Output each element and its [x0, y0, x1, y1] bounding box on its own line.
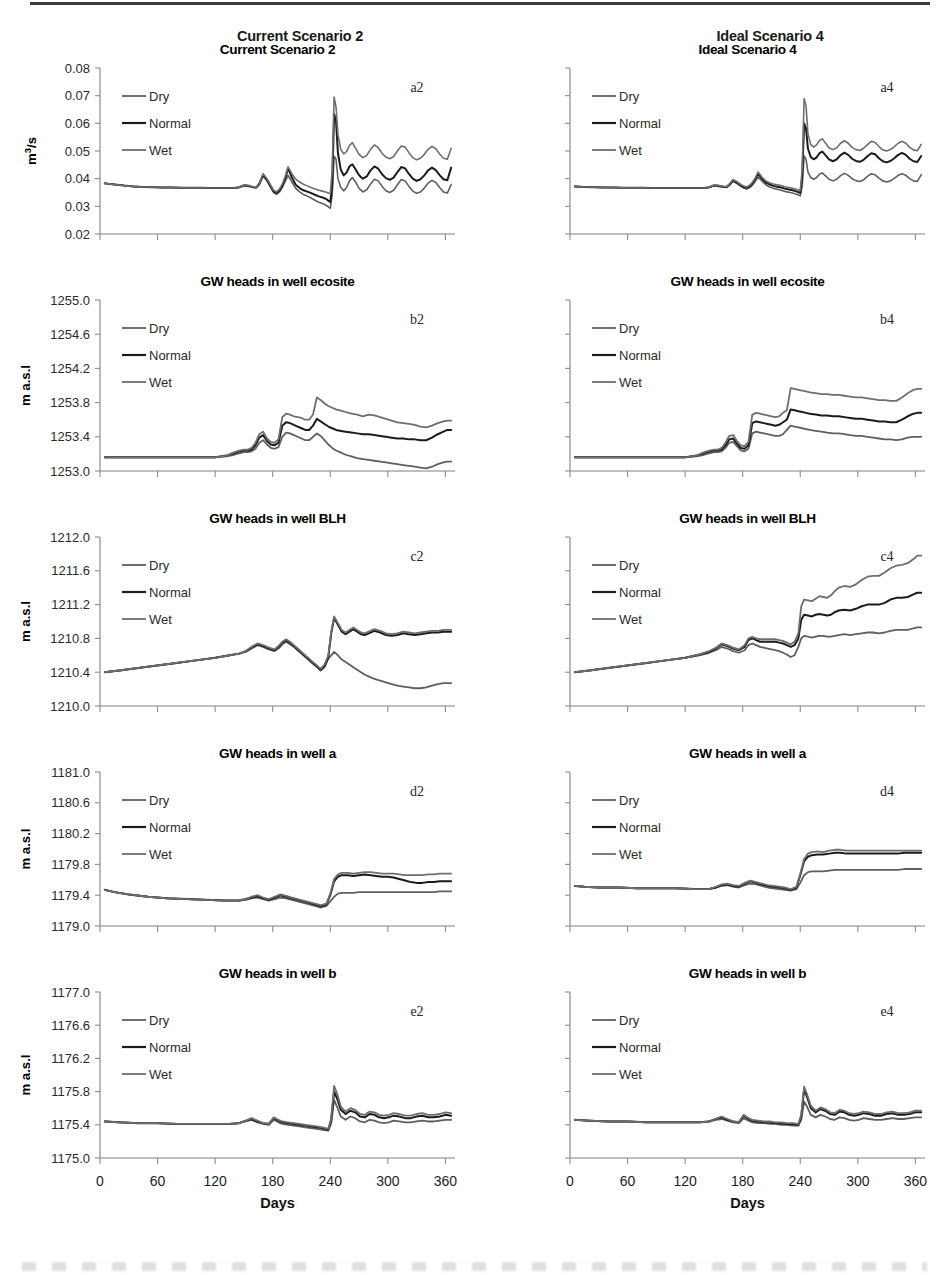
- series-line-dry: [105, 1100, 451, 1131]
- panel-title: GW heads in well BLH: [209, 511, 346, 526]
- panel-grid: Current Scenario 20.020.030.040.050.060.…: [0, 0, 946, 1275]
- legend-label-wet: Wet: [619, 1067, 642, 1082]
- y-tick-label: 1179.8: [51, 857, 90, 872]
- y-tick-label: 1175.4: [51, 1117, 90, 1132]
- chart-panel-d4: GW heads in well aDryNormalWetd4: [470, 738, 940, 970]
- panel-title: GW heads in well ecosite: [670, 274, 825, 289]
- y-tick-label: 1210.8: [50, 631, 90, 646]
- chart-panel-d2: GW heads in well a1179.01179.41179.81180…: [0, 738, 470, 970]
- x-tick-label: 0: [566, 1173, 574, 1189]
- panel-id-label: a4: [880, 80, 893, 95]
- x-tick-label: 60: [620, 1173, 636, 1189]
- legend-label-wet: Wet: [149, 612, 172, 627]
- x-axis-title: Days: [730, 1195, 765, 1211]
- legend-label-dry: Dry: [149, 321, 170, 336]
- legend-label-wet: Wet: [619, 612, 642, 627]
- y-tick-label: 1254.2: [50, 361, 90, 376]
- legend-label-normal: Normal: [149, 348, 191, 363]
- x-tick-label: 180: [731, 1173, 755, 1189]
- panel-title: GW heads in well a: [689, 746, 807, 761]
- x-tick-label: 240: [789, 1173, 813, 1189]
- y-tick-label: 0.08: [65, 61, 90, 76]
- panel-id-label: a2: [410, 80, 423, 95]
- x-tick-label: 240: [319, 1173, 343, 1189]
- legend-label-wet: Wet: [149, 375, 172, 390]
- legend-label-dry: Dry: [619, 793, 640, 808]
- y-tick-label: 1254.6: [50, 327, 90, 342]
- y-tick-label: 1210.0: [50, 699, 90, 714]
- y-tick-label: 1179.4: [51, 888, 90, 903]
- series-line-dry: [105, 890, 451, 908]
- panel-title: Ideal Scenario 4: [699, 42, 798, 57]
- chart-panel-b2: GW heads in well ecosite1253.01253.41253…: [0, 266, 470, 516]
- y-tick-label: 1211.6: [51, 563, 90, 578]
- panel-id-label: d2: [410, 784, 424, 799]
- y-axis-title: m a.s.l: [18, 365, 33, 406]
- y-tick-label: 1253.8: [50, 395, 90, 410]
- chart-panel-a4: Ideal Scenario 4DryNormalWeta4: [470, 34, 940, 284]
- legend-label-dry: Dry: [619, 89, 640, 104]
- series-line-dry: [105, 156, 451, 208]
- chart-panel-e4: GW heads in well b060120180240300360Days…: [470, 958, 940, 1253]
- series-line-wet: [105, 872, 451, 905]
- x-tick-label: 120: [203, 1173, 227, 1189]
- legend-label-dry: Dry: [619, 1013, 640, 1028]
- panel-title: GW heads in well BLH: [679, 511, 816, 526]
- y-axis-title: m a.s.l: [18, 828, 33, 869]
- legend-label-dry: Dry: [149, 1013, 170, 1028]
- series-line-normal: [105, 874, 451, 906]
- panel-title: GW heads in well a: [219, 746, 337, 761]
- x-tick-label: 360: [434, 1173, 458, 1189]
- chart-panel-c2: GW heads in well BLH1210.01210.41210.812…: [0, 503, 470, 748]
- chart-panel-a2: Current Scenario 20.020.030.040.050.060.…: [0, 34, 470, 284]
- y-axis-title: m3/s: [22, 137, 39, 165]
- y-tick-label: 1212.0: [50, 530, 90, 545]
- panel-title: Current Scenario 2: [220, 42, 336, 57]
- series-line-dry: [575, 156, 921, 196]
- legend-label-normal: Normal: [149, 820, 191, 835]
- panel-id-label: e4: [880, 1004, 893, 1019]
- chart-panel-e2: GW heads in well b1175.01175.41175.81176…: [0, 958, 470, 1253]
- y-tick-label: 1175.0: [51, 1151, 90, 1166]
- legend-label-normal: Normal: [619, 1040, 661, 1055]
- x-tick-label: 0: [96, 1173, 104, 1189]
- series-line-wet: [105, 397, 451, 457]
- series-line-normal: [575, 123, 921, 192]
- legend-label-wet: Wet: [149, 143, 172, 158]
- panel-title: GW heads in well b: [219, 966, 337, 981]
- y-tick-label: 1211.2: [51, 597, 90, 612]
- legend-label-normal: Normal: [149, 1040, 191, 1055]
- x-tick-label: 120: [673, 1173, 697, 1189]
- legend-label-wet: Wet: [149, 1067, 172, 1082]
- legend-label-dry: Dry: [619, 558, 640, 573]
- legend-label-dry: Dry: [149, 558, 170, 573]
- panel-id-label: c2: [410, 549, 423, 564]
- panel-id-label: d4: [880, 784, 894, 799]
- y-tick-label: 0.04: [65, 171, 90, 186]
- legend-label-dry: Dry: [619, 321, 640, 336]
- legend-label-normal: Normal: [619, 116, 661, 131]
- x-tick-label: 300: [376, 1173, 400, 1189]
- y-tick-label: 1253.4: [50, 429, 90, 444]
- x-tick-label: 360: [904, 1173, 928, 1189]
- y-tick-label: 1176.6: [51, 1018, 90, 1033]
- legend-label-normal: Normal: [619, 348, 661, 363]
- y-tick-label: 1210.4: [50, 665, 90, 680]
- y-axis-title: m a.s.l: [18, 601, 33, 642]
- legend-label-normal: Normal: [619, 585, 661, 600]
- panel-id-label: b4: [880, 312, 894, 327]
- y-tick-label: 0.02: [65, 227, 90, 242]
- y-tick-label: 1255.0: [50, 293, 90, 308]
- legend-label-wet: Wet: [619, 143, 642, 158]
- y-tick-label: 1175.8: [51, 1084, 90, 1099]
- figure-root: Current Scenario 2 Ideal Scenario 4 Curr…: [0, 0, 946, 1275]
- legend-label-normal: Normal: [149, 116, 191, 131]
- page-footer-artifact: [22, 1262, 927, 1271]
- legend-label-normal: Normal: [619, 820, 661, 835]
- panel-id-label: b2: [410, 312, 424, 327]
- x-axis-title: Days: [260, 1195, 295, 1211]
- x-tick-label: 60: [150, 1173, 166, 1189]
- panel-title: GW heads in well ecosite: [200, 274, 355, 289]
- chart-panel-b4: GW heads in well ecositeDryNormalWetb4: [470, 266, 940, 516]
- y-tick-label: 0.06: [65, 116, 90, 131]
